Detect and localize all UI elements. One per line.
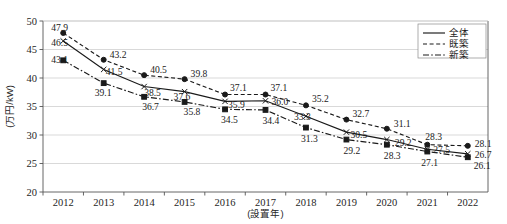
data-point-label: 36.7: [142, 101, 159, 112]
x-axis-ticks: 2012201320142015201620172018201920202021…: [43, 192, 478, 208]
data-point-marker: [344, 117, 349, 122]
data-point-label: 47.9: [51, 22, 68, 33]
data-point-label: 27.1: [421, 157, 438, 168]
data-point-marker: [101, 81, 106, 86]
data-point-label: 39.8: [191, 68, 208, 79]
x-tick-label: 2020: [376, 197, 397, 208]
data-point-label: 28.3: [384, 150, 401, 161]
data-point-label: 35.2: [312, 93, 329, 104]
data-point-label: 28.1: [475, 138, 492, 149]
data-point-label: 26.7: [475, 149, 492, 160]
x-tick-label: 2015: [174, 197, 195, 208]
data-point-marker: [263, 108, 268, 113]
data-point-marker: [344, 137, 349, 142]
data-point-marker: [465, 143, 470, 148]
x-tick-label: 2016: [215, 197, 236, 208]
chart-canvas: 2025303540455020122013201420152016201720…: [0, 0, 507, 224]
data-point-marker: [425, 149, 430, 154]
x-tick-label: 2018: [295, 197, 316, 208]
y-tick-label: 35: [27, 101, 38, 112]
data-point-label: 34.5: [221, 114, 238, 125]
data-point-label: 46.5: [51, 37, 68, 48]
y-tick-label: 50: [27, 16, 38, 27]
y-tick-label: 25: [27, 158, 38, 169]
data-point-marker: [303, 103, 308, 108]
data-point-label: 28.3: [425, 131, 442, 142]
data-point-marker: [263, 92, 268, 97]
data-point-label: 36.0: [272, 96, 289, 107]
y-tick-label: 40: [27, 73, 38, 84]
x-tick-label: 2021: [417, 197, 438, 208]
data-point-label: 31.3: [301, 133, 318, 144]
data-point-marker: [465, 155, 470, 160]
data-point-label: 37.6: [174, 91, 191, 102]
data-point-label: 29.2: [395, 137, 412, 148]
data-point-label: 30.5: [350, 129, 367, 140]
data-point-marker: [384, 126, 389, 131]
data-point-marker: [182, 77, 187, 82]
data-point-label: 35.9: [228, 99, 245, 110]
data-point-label: 33.3: [294, 111, 311, 122]
data-point-label: 35.8: [184, 106, 201, 117]
data-point-marker: [425, 142, 430, 147]
x-tick-label: 2013: [93, 197, 114, 208]
x-tick-label: 2017: [255, 197, 276, 208]
data-point-label: 32.7: [352, 108, 369, 119]
legend: 全体既築新築: [418, 24, 486, 60]
legend-label-既築: 既築: [449, 38, 469, 49]
line-chart: 2025303540455020122013201420152016201720…: [0, 0, 507, 224]
data-point-marker: [304, 125, 309, 130]
data-point-label: 37.1: [230, 82, 247, 93]
x-tick-label: 2022: [457, 197, 478, 208]
data-point-marker: [142, 73, 147, 78]
data-point-marker: [101, 57, 106, 62]
x-tick-label: 2014: [134, 197, 156, 208]
data-point-label: 29.2: [343, 145, 360, 156]
data-point-label: 27.5: [433, 144, 450, 155]
data-point-label: 40.5: [150, 64, 167, 75]
legend-label-新築: 新築: [449, 49, 469, 60]
data-point-label: 43.2: [110, 49, 127, 60]
x-tick-label: 2019: [336, 197, 357, 208]
y-tick-label: 20: [27, 187, 38, 198]
data-point-label: 37.1: [271, 82, 288, 93]
data-point-marker: [223, 107, 228, 112]
data-point-label: 34.4: [263, 115, 280, 126]
y-tick-label: 30: [27, 130, 38, 141]
y-axis-ticks: 20253035404550: [27, 16, 44, 198]
x-tick-label: 2012: [53, 197, 74, 208]
y-axis-title: (万円/kW): [4, 85, 15, 128]
x-axis-title: (設置年): [247, 208, 283, 219]
y-tick-label: 45: [27, 44, 38, 55]
data-point-label: 41.5: [106, 66, 123, 77]
data-point-marker: [223, 92, 228, 97]
data-point-marker: [384, 142, 389, 147]
data-point-label: 26.1: [474, 160, 491, 171]
data-point-label: 43.1: [51, 54, 68, 65]
data-point-label: 39.1: [95, 87, 112, 98]
data-point-label: 38.5: [144, 87, 161, 98]
data-point-label: 31.1: [394, 118, 411, 129]
legend-label-全体: 全体: [449, 27, 469, 38]
